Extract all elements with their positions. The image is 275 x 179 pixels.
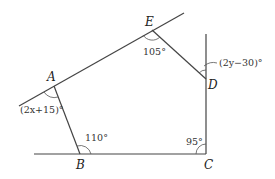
line-AE-extended [19,13,184,106]
angle-arc-E [143,35,160,40]
point-label-C: C [204,158,213,172]
angle-label-D: (2y−30)° [219,57,263,68]
angle-label-A: (2x+15)° [20,104,64,115]
angle-label-E: 105° [143,46,166,57]
geometry-diagram: A B C D E (2x+15)° 110° 95° (2y−30)° 105… [0,0,275,179]
point-label-A: A [46,70,56,84]
point-label-E: E [144,15,154,29]
angle-arc-A [44,92,58,98]
point-label-D: D [207,78,218,92]
point-label-B: B [75,158,85,172]
angle-label-B: 110° [85,132,108,143]
segment-AB [54,86,80,154]
angle-arc-D [199,70,206,73]
angle-label-C: 95° [186,136,203,147]
